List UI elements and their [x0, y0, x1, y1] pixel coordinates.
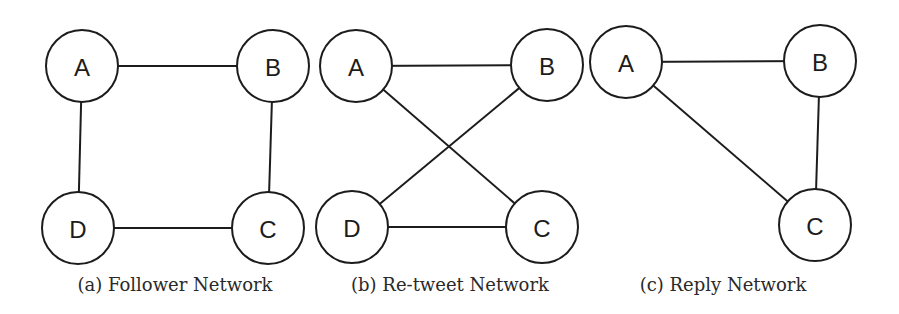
node-b: B — [784, 25, 856, 97]
node-label: C — [533, 215, 550, 242]
caption-follower-network: (a) Follower Network — [78, 274, 273, 295]
node-d: D — [42, 192, 114, 264]
node-label: D — [69, 216, 86, 243]
node-a: A — [320, 30, 392, 102]
caption-reply-network: (c) Reply Network — [640, 274, 807, 295]
node-c: C — [232, 192, 304, 264]
node-label: C — [806, 213, 823, 240]
node-c: C — [779, 189, 851, 261]
panel-a: ABCD — [42, 30, 309, 264]
node-b: B — [237, 30, 309, 102]
node-c: C — [506, 191, 578, 263]
node-label: A — [348, 54, 364, 81]
node-label: B — [539, 53, 555, 80]
node-label: B — [812, 49, 828, 76]
edge-a-c — [626, 62, 815, 225]
node-label: A — [618, 50, 634, 77]
graph-canvas: ABCDABCDABC — [0, 0, 899, 314]
node-label: C — [259, 216, 276, 243]
panel-b: ABCD — [316, 29, 583, 263]
node-label: B — [265, 54, 281, 81]
node-label: D — [343, 215, 360, 242]
node-label: A — [74, 54, 90, 81]
node-a: A — [590, 26, 662, 98]
panel-c: ABC — [590, 25, 856, 261]
network-diagram-figure: ABCDABCDABC (a) Follower Network (b) Re-… — [0, 0, 899, 314]
node-b: B — [511, 29, 583, 101]
node-a: A — [46, 30, 118, 102]
node-d: D — [316, 191, 388, 263]
caption-retweet-network: (b) Re-tweet Network — [351, 274, 549, 295]
